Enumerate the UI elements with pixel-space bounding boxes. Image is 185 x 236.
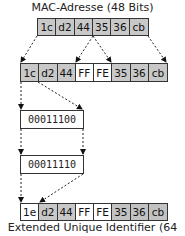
flow-arrows: [0, 0, 185, 236]
